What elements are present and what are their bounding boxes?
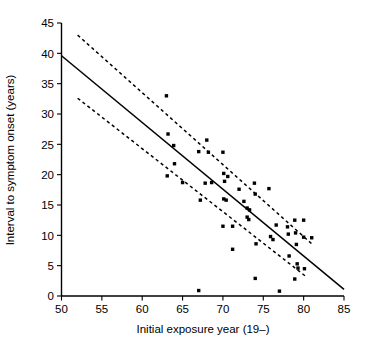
x-tick-label: 75 <box>257 303 270 315</box>
confidence-band-line <box>78 98 306 276</box>
y-tick-label: 10 <box>41 230 54 242</box>
data-point <box>207 151 210 154</box>
data-point <box>172 144 175 147</box>
data-point <box>197 150 200 153</box>
regression-line-group <box>62 56 345 290</box>
data-point <box>231 248 234 251</box>
x-tick-label: 80 <box>297 303 310 315</box>
x-axis-tick-labels: 5055606570758085 <box>55 303 350 315</box>
data-point <box>221 225 224 228</box>
data-point <box>294 231 297 234</box>
data-point <box>271 238 274 241</box>
y-tick-label: 0 <box>48 290 54 302</box>
y-tick-label: 25 <box>41 139 54 151</box>
x-axis-title: Initial exposure year (19–) <box>137 323 270 335</box>
data-point <box>203 181 206 184</box>
chart-canvas: 051015202530354045 5055606570758085 Init… <box>0 0 366 341</box>
data-point <box>278 289 281 292</box>
data-point <box>247 218 250 221</box>
y-tick-label: 30 <box>41 108 54 120</box>
data-point <box>253 181 256 184</box>
data-point <box>205 138 208 141</box>
y-tick-label: 20 <box>41 169 54 181</box>
confidence-band-line <box>78 35 312 244</box>
data-point <box>275 223 278 226</box>
data-point <box>166 174 169 177</box>
x-tick-label: 85 <box>338 303 351 315</box>
data-point <box>287 232 290 235</box>
y-tick-label: 45 <box>41 17 54 29</box>
data-points-group <box>165 94 314 293</box>
data-point <box>231 225 234 228</box>
data-point <box>197 289 200 292</box>
data-point <box>269 235 272 238</box>
data-point <box>181 181 184 184</box>
data-point <box>293 277 296 280</box>
data-point <box>210 181 213 184</box>
y-tick-label: 15 <box>41 199 54 211</box>
x-tick-label: 65 <box>176 303 189 315</box>
data-point <box>287 254 290 257</box>
data-point <box>293 218 296 221</box>
scatter-plot-figure: 051015202530354045 5055606570758085 Init… <box>0 0 366 341</box>
y-tick-label: 40 <box>41 48 54 60</box>
data-point <box>254 242 257 245</box>
data-point <box>242 200 245 203</box>
data-point <box>165 94 168 97</box>
data-point <box>295 243 298 246</box>
data-point <box>222 172 225 175</box>
data-point <box>302 235 305 238</box>
regression-fit-line <box>62 56 345 290</box>
data-point <box>302 218 305 221</box>
y-axis-title: Interval to symptom onset (years) <box>4 75 16 246</box>
confidence-band-group <box>78 35 312 276</box>
data-point <box>254 277 257 280</box>
x-tick-label: 60 <box>136 303 149 315</box>
data-point <box>166 132 169 135</box>
data-point <box>226 175 229 178</box>
data-point <box>286 225 289 228</box>
data-point <box>223 180 226 183</box>
data-point <box>199 198 202 201</box>
y-tick-label: 35 <box>41 78 54 90</box>
data-point <box>267 187 270 190</box>
data-point <box>248 208 251 211</box>
x-tick-label: 50 <box>55 303 68 315</box>
data-point <box>254 192 257 195</box>
data-point <box>173 162 176 165</box>
y-tick-label: 5 <box>48 260 54 272</box>
x-tick-label: 55 <box>95 303 108 315</box>
data-point <box>221 151 224 154</box>
data-point <box>310 236 313 239</box>
y-axis-tick-labels: 051015202530354045 <box>41 17 54 302</box>
data-point <box>224 198 227 201</box>
x-tick-label: 70 <box>217 303 230 315</box>
data-point <box>295 262 298 265</box>
data-point <box>303 267 306 270</box>
data-point <box>296 266 299 269</box>
data-point <box>237 188 240 191</box>
